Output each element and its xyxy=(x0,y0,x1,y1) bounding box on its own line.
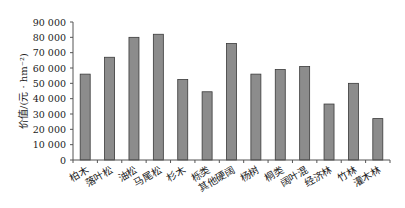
bar xyxy=(275,70,285,160)
x-axis: 柏木落叶松油松马尾松杉木栎类其他硬阔杨树桐类阔叶混经济林竹林灌木林 xyxy=(67,160,390,194)
bar xyxy=(251,74,261,160)
y-tick-label: 70 000 xyxy=(33,47,66,58)
x-category-label: 杨树 xyxy=(238,163,261,183)
x-category-label: 杉木 xyxy=(164,163,187,183)
bar xyxy=(80,74,90,160)
bar xyxy=(129,37,139,160)
y-tick-label: 90 000 xyxy=(33,17,66,28)
y-tick-label: 60 000 xyxy=(33,63,66,74)
y-axis-title: 价值/(元 · hm⁻²) xyxy=(17,53,29,129)
bar xyxy=(227,43,237,160)
bar-chart: 价值/(元 · hm⁻²) 010 00020 00030 00040 0005… xyxy=(0,0,405,208)
y-axis: 010 00020 00030 00040 00050 00060 00070 … xyxy=(33,17,73,166)
bar xyxy=(324,104,334,160)
bar xyxy=(105,57,115,160)
bars xyxy=(80,34,383,160)
y-tick-label: 30 000 xyxy=(33,109,66,120)
y-tick-label: 10 000 xyxy=(33,139,66,150)
x-category-label: 落叶松 xyxy=(83,163,115,188)
y-tick-label: 0 xyxy=(60,155,66,166)
y-tick-label: 20 000 xyxy=(33,124,66,135)
x-category-label: 马尾松 xyxy=(131,163,163,188)
bar xyxy=(348,83,358,160)
bar xyxy=(300,66,310,160)
bar xyxy=(178,80,188,161)
bar xyxy=(153,34,163,160)
bar xyxy=(373,119,383,160)
y-tick-label: 80 000 xyxy=(33,32,66,43)
bar xyxy=(202,92,212,160)
x-category-label: 经济林 xyxy=(302,163,334,188)
y-tick-label: 50 000 xyxy=(33,78,66,89)
x-category-label: 灌木林 xyxy=(351,163,383,188)
y-tick-label: 40 000 xyxy=(33,93,66,104)
